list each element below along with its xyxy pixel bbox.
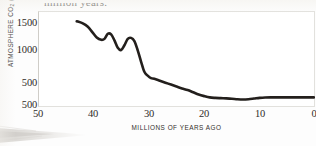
co2-line-chart: [38, 11, 315, 107]
y-tick-label: 1000: [9, 44, 37, 55]
co2-curve-path: [77, 21, 314, 99]
x-tick-label: 30: [134, 108, 164, 119]
x-tick-label: 20: [189, 108, 219, 119]
x-tick-label: 10: [245, 108, 275, 119]
top-caption-text: million years.: [44, 0, 107, 8]
y-tick-label: 1500: [9, 17, 37, 28]
x-axis-tick-labels: 50 40 30 20 10 0: [0, 108, 316, 124]
x-tick-label: 40: [78, 108, 108, 119]
y-axis-tick-labels: 1500 1000 500 500: [6, 0, 37, 146]
x-axis-title: MILLIONS OF YEARS AGO: [38, 124, 315, 131]
x-tick-label: 0: [299, 108, 316, 119]
x-tick-label: 50: [23, 108, 53, 119]
y-tick-label: 500: [9, 77, 37, 88]
scanned-figure-page: million years. ATMOSPHERE CO2 (PPM) 1500…: [0, 0, 316, 146]
